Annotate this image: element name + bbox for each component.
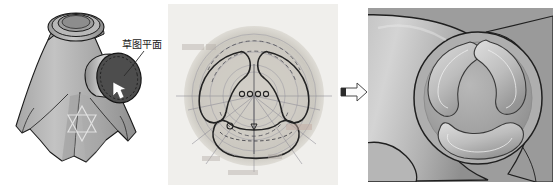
panel-closeup-render	[368, 8, 553, 182]
figure-root: 草图平面	[0, 0, 553, 189]
arrow-right-icon	[339, 80, 369, 104]
top-boss	[48, 13, 104, 41]
transition-arrow	[339, 80, 369, 104]
closeup-svg	[368, 8, 553, 182]
panel-sketch-view	[168, 4, 338, 185]
sketch-plane-label: 草图平面	[122, 39, 162, 51]
panel-3d-model: 草图平面	[0, 0, 168, 189]
sketch-svg	[168, 4, 338, 185]
left-model-svg	[0, 0, 168, 189]
